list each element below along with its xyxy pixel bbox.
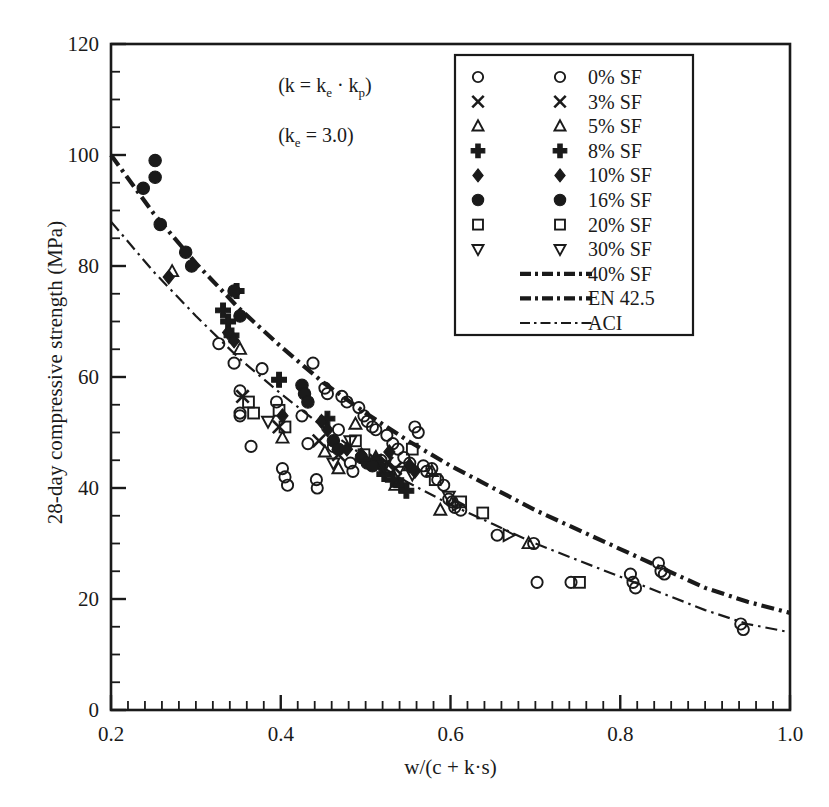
series-10-sf xyxy=(163,270,420,478)
plot-canvas xyxy=(0,0,829,807)
data-point xyxy=(137,182,149,194)
legend-box xyxy=(455,55,693,335)
legend-label: 5% SF xyxy=(588,115,642,138)
data-point xyxy=(256,363,267,374)
data-point xyxy=(228,358,239,369)
data-point xyxy=(492,530,503,541)
data-point xyxy=(185,260,197,272)
y-tick-label: 120 xyxy=(0,32,99,57)
data-point xyxy=(302,396,314,408)
series-0-sf xyxy=(213,338,749,635)
series-16-sf xyxy=(137,154,379,472)
x-tick-label: 0.6 xyxy=(437,722,463,747)
legend-label: 20% SF xyxy=(588,213,652,236)
data-point xyxy=(271,396,282,407)
data-point xyxy=(302,438,313,449)
x-tick-label: 0.8 xyxy=(607,722,633,747)
legend-label: 0% SF xyxy=(588,66,642,89)
legend-label: 16% SF xyxy=(588,189,652,212)
y-tick-label: 80 xyxy=(0,254,99,279)
y-tick-label: 20 xyxy=(0,587,99,612)
data-point xyxy=(353,402,364,413)
legend-label: 40% SF xyxy=(588,262,652,285)
data-point xyxy=(272,372,287,387)
data-point xyxy=(149,171,161,183)
annotation-2: (ke = 3.0) xyxy=(278,124,353,151)
y-tick-label: 60 xyxy=(0,365,99,390)
data-point xyxy=(234,310,246,322)
data-point xyxy=(333,424,344,435)
data-point xyxy=(276,432,288,443)
y-tick-label: 100 xyxy=(0,143,99,168)
legend-marker-left xyxy=(472,194,483,205)
data-point xyxy=(248,408,259,419)
y-tick-label: 40 xyxy=(0,476,99,501)
legend-label: ACI xyxy=(588,312,622,335)
data-point xyxy=(149,154,161,166)
data-point xyxy=(262,417,274,428)
series-40-sf xyxy=(453,499,515,542)
data-point xyxy=(313,435,325,447)
x-axis-label: w/(c + k·s) xyxy=(111,755,790,780)
data-point xyxy=(366,460,378,472)
data-point xyxy=(228,285,240,297)
chart-figure: 0204060801001200.20.40.60.81.028-day com… xyxy=(0,0,829,807)
annotation-1: (k = ke · kp) xyxy=(278,74,372,101)
data-point xyxy=(179,246,191,258)
x-tick-label: 0.4 xyxy=(268,722,294,747)
data-point xyxy=(296,410,307,421)
data-point xyxy=(154,218,166,230)
y-tick-label: 0 xyxy=(0,698,99,723)
data-point xyxy=(245,441,256,452)
legend-label: 30% SF xyxy=(588,238,652,261)
data-point xyxy=(307,358,318,369)
legend-label: 3% SF xyxy=(588,90,642,113)
legend-label: 10% SF xyxy=(588,164,652,187)
data-point xyxy=(504,529,515,541)
data-point xyxy=(312,482,323,493)
data-point xyxy=(332,443,344,455)
legend-marker-right xyxy=(554,194,565,205)
data-point xyxy=(370,424,381,435)
data-point xyxy=(434,504,446,515)
data-point xyxy=(531,577,542,588)
x-tick-label: 1.0 xyxy=(777,722,803,747)
x-tick-label: 0.2 xyxy=(98,722,124,747)
legend-label: EN 42.5 xyxy=(588,287,655,310)
legend-label: 8% SF xyxy=(588,139,642,162)
